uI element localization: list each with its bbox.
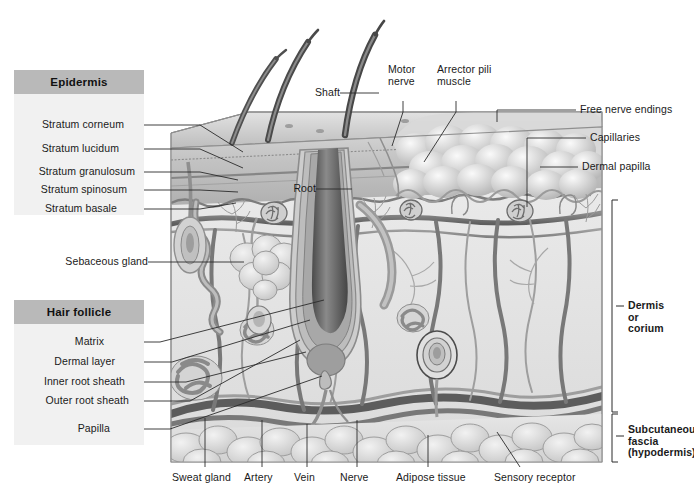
label-sweat-gland: Sweat gland <box>172 472 252 484</box>
label-root: Root <box>274 183 316 195</box>
label-shaft: Shaft <box>294 87 340 99</box>
label-outer-root-sheath: Outer root sheath <box>10 395 129 407</box>
label-stratum-granulosum: Stratum granulosum <box>6 166 135 178</box>
label-vein: Vein <box>294 472 332 484</box>
capillary-tuft-mid <box>400 200 422 220</box>
label-dermal-layer: Dermal layer <box>14 356 115 368</box>
label-stratum-spinosum: Stratum spinosum <box>8 184 127 196</box>
hair-follicle-panel-header: Hair follicle <box>14 300 144 324</box>
meissner-corpuscle <box>247 306 271 334</box>
right-brackets <box>612 200 624 462</box>
label-artery: Artery <box>244 472 292 484</box>
subcutaneous-bracket <box>612 414 618 462</box>
capillary-tuft-right <box>507 200 533 222</box>
skin-block <box>165 110 610 477</box>
label-stratum-basale: Stratum basale <box>10 203 117 215</box>
capillary-tuft-left <box>261 202 287 224</box>
label-stratum-lucidum: Stratum lucidum <box>10 143 119 155</box>
skin-diagram-figure: Epidermis Stratum corneum Stratum lucidu… <box>0 0 694 494</box>
label-dermal-papilla: Dermal papilla <box>582 161 688 173</box>
label-sebaceous-gland: Sebaceous gland <box>40 256 148 268</box>
epidermis-panel-header: Epidermis <box>14 70 144 94</box>
label-motor-nerve: Motor nerve <box>388 64 444 87</box>
label-adipose-tissue: Adipose tissue <box>396 472 488 484</box>
lifted-epidermis-flap <box>392 110 606 202</box>
label-nerve: Nerve <box>340 472 384 484</box>
label-matrix: Matrix <box>14 336 104 348</box>
sweat-gland-coil-lower <box>170 356 222 400</box>
label-dermis: Dermis or corium <box>628 300 690 335</box>
label-papilla: Papilla <box>14 423 110 435</box>
label-subcutaneous-fascia: Subcutaneous fascia (hypodermis) <box>628 424 694 459</box>
sweat-gland-right <box>397 304 429 332</box>
label-free-nerve-endings: Free nerve endings <box>580 104 692 116</box>
label-capillaries: Capillaries <box>590 132 680 144</box>
label-arrector-pili-muscle: Arrector pili muscle <box>437 64 513 87</box>
label-sensory-receptor: Sensory receptor <box>494 472 600 484</box>
label-inner-root-sheath: Inner root sheath <box>10 376 125 388</box>
label-stratum-corneum: Stratum corneum <box>10 119 124 131</box>
